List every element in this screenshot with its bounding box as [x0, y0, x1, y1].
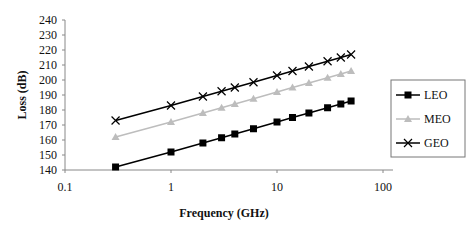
- square-marker-icon: [324, 104, 331, 111]
- square-marker-icon: [337, 101, 344, 108]
- chart: 140150160170180190200210220230240 0.1110…: [0, 0, 472, 236]
- y-tick-label: 140: [39, 163, 57, 177]
- y-tick-label: 200: [39, 73, 57, 87]
- y-tick-label: 230: [39, 28, 57, 42]
- x-marker-icon: [231, 84, 239, 92]
- legend: LEOMEOGEO: [391, 80, 465, 157]
- square-marker-icon: [231, 131, 238, 138]
- square-marker-icon: [348, 98, 355, 105]
- y-tick-label: 150: [39, 148, 57, 162]
- series-leo: [112, 98, 355, 171]
- square-marker-icon: [168, 149, 175, 156]
- series-geo: [112, 51, 356, 125]
- y-tick-label: 220: [39, 43, 57, 57]
- legend-label: MEO: [424, 112, 451, 126]
- x-tick-label: 0.1: [58, 180, 73, 194]
- y-tick-label: 240: [39, 13, 57, 27]
- y-axis-ticks: 140150160170180190200210220230240: [39, 13, 65, 177]
- legend-label: LEO: [424, 88, 448, 102]
- x-marker-icon: [199, 93, 207, 101]
- x-marker-icon: [273, 72, 281, 80]
- x-marker-icon: [337, 54, 345, 62]
- square-marker-icon: [289, 114, 296, 121]
- square-marker-icon: [274, 119, 281, 126]
- triangle-marker-icon: [347, 67, 355, 74]
- y-tick-label: 210: [39, 58, 57, 72]
- x-tick-label: 1: [168, 180, 174, 194]
- square-marker-icon: [405, 92, 412, 99]
- square-marker-icon: [199, 140, 206, 147]
- square-marker-icon: [218, 134, 225, 141]
- y-tick-label: 170: [39, 118, 57, 132]
- x-tick-label: 100: [374, 180, 392, 194]
- y-tick-label: 190: [39, 88, 57, 102]
- x-marker-icon: [347, 51, 355, 59]
- square-marker-icon: [112, 164, 119, 171]
- plot-area: [65, 20, 393, 171]
- y-axis-title: Loss (dB): [15, 70, 29, 119]
- x-axis-title: Frequency (GHz): [179, 206, 268, 220]
- x-axis-ticks: 0.1110100: [58, 170, 393, 194]
- legend-label: GEO: [424, 136, 449, 150]
- y-tick-label: 160: [39, 133, 57, 147]
- square-marker-icon: [250, 125, 257, 132]
- y-tick-label: 180: [39, 103, 57, 117]
- series-meo: [112, 67, 356, 140]
- square-marker-icon: [305, 110, 312, 117]
- x-tick-label: 10: [271, 180, 283, 194]
